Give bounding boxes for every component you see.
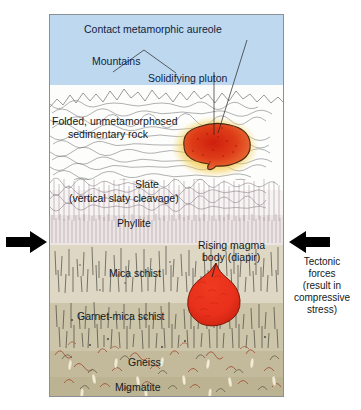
cross-section-frame: Contact metamorphic aureole Mountains So… (49, 14, 284, 397)
label-mountains: Mountains (92, 55, 140, 68)
label-migmatite: Migmatite (115, 381, 161, 394)
label-tectonic-line2: forces (285, 268, 359, 280)
label-rising-magma-line1: Rising magma (198, 239, 265, 252)
label-gneiss: Gneiss (128, 356, 161, 369)
label-folded-sedimentary-line1: Folded, unmetamorphosed (52, 115, 178, 128)
label-folded-sedimentary-line2: sedimentary rock (68, 128, 148, 141)
compression-arrow-left (6, 231, 48, 253)
label-solidifying-pluton: Solidifying pluton (148, 72, 227, 85)
compression-arrow-right (288, 231, 330, 253)
label-mica-schist: Mica schist (109, 267, 161, 280)
label-tectonic-line3: (result in (285, 280, 359, 292)
label-contact-metamorphic-aureole: Contact metamorphic aureole (84, 23, 222, 36)
figure-canvas: Contact metamorphic aureole Mountains So… (0, 0, 361, 410)
label-garnet-mica-schist: Garnet-mica schist (77, 310, 165, 323)
label-tectonic-line1: Tectonic (285, 256, 359, 268)
migmatite-layer (50, 377, 283, 397)
label-vertical-slaty-cleavage: (vertical slaty cleavage) (69, 192, 179, 205)
label-phyllite: Phyllite (117, 217, 151, 230)
label-rising-magma-line2: body (diapir) (202, 251, 260, 264)
label-tectonic-line4: compressive (285, 292, 359, 304)
label-slate: Slate (135, 178, 159, 191)
label-tectonic-line5: stress) (285, 304, 359, 316)
